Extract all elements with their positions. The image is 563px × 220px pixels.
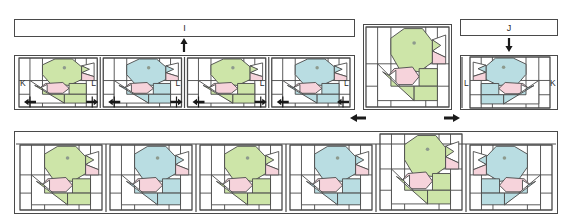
block-label-right-3: L (344, 79, 349, 88)
block-label-right-1: L (176, 79, 181, 88)
mirrored-block-label-left: L (464, 79, 469, 88)
diagram-canvas: ock row should measure 5 4" x 50 1/2". I… (0, 0, 563, 220)
block-label-left-0: K (20, 79, 26, 88)
block-label-right-2: L (260, 79, 265, 88)
mirrored-block-label-right: K (550, 79, 556, 88)
patchwork-art (0, 0, 563, 220)
block-label-right-0: L (91, 79, 96, 88)
